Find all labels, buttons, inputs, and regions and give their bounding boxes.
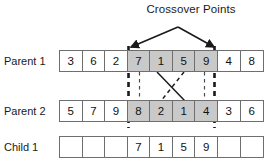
- cell-parent-2-2[interactable]: 9: [105, 101, 128, 121]
- crossover-arrow-left: [131, 27, 178, 47]
- cell-child-1-5[interactable]: 5: [173, 137, 196, 157]
- diagram-title: Crossover Points: [116, 3, 266, 15]
- cell-parent-1-0[interactable]: 3: [60, 51, 83, 71]
- cell-parent-2-3[interactable]: 8: [128, 101, 151, 121]
- cell-parent-2-8[interactable]: 6: [241, 101, 264, 121]
- cell-parent-2-5[interactable]: 1: [173, 101, 196, 121]
- chromosome-child-1: 7 1 5 9: [59, 136, 264, 158]
- cell-child-1-1[interactable]: [83, 137, 106, 157]
- cell-parent-1-7[interactable]: 4: [218, 51, 241, 71]
- row-label-parent-2: Parent 2: [4, 100, 56, 122]
- cell-parent-2-6[interactable]: 4: [195, 101, 218, 121]
- cell-child-1-7[interactable]: [218, 137, 241, 157]
- cell-child-1-6[interactable]: 9: [195, 137, 218, 157]
- cell-parent-1-2[interactable]: 2: [105, 51, 128, 71]
- crossover-arrow-right: [178, 27, 214, 47]
- cell-parent-2-4[interactable]: 2: [150, 101, 173, 121]
- chromosome-parent-2: 5 7 9 8 2 1 4 3 6: [59, 100, 264, 122]
- cell-child-1-8[interactable]: [241, 137, 264, 157]
- cell-parent-1-5[interactable]: 5: [173, 51, 196, 71]
- cell-parent-2-1[interactable]: 7: [83, 101, 106, 121]
- cell-parent-1-1[interactable]: 6: [83, 51, 106, 71]
- cell-child-1-0[interactable]: [60, 137, 83, 157]
- row-label-parent-1: Parent 1: [4, 50, 56, 72]
- cell-parent-1-3[interactable]: 7: [128, 51, 151, 71]
- cell-parent-2-7[interactable]: 3: [218, 101, 241, 121]
- row-label-child-1: Child 1: [4, 136, 56, 158]
- solid-swap-line: [157, 72, 185, 101]
- dashed-swap-line: [161, 72, 184, 101]
- cell-parent-2-0[interactable]: 5: [60, 101, 83, 121]
- cell-child-1-2[interactable]: [105, 137, 128, 157]
- cell-parent-1-8[interactable]: 8: [241, 51, 264, 71]
- cell-parent-1-4[interactable]: 1: [150, 51, 173, 71]
- cell-child-1-4[interactable]: 1: [150, 137, 173, 157]
- cell-child-1-3[interactable]: 7: [128, 137, 151, 157]
- crossover-diagram: Crossover Points Parent 1 3 6 2: [0, 0, 273, 165]
- chromosome-parent-1: 3 6 2 7 1 5 9 4 8: [59, 50, 264, 72]
- cell-parent-1-6[interactable]: 9: [195, 51, 218, 71]
